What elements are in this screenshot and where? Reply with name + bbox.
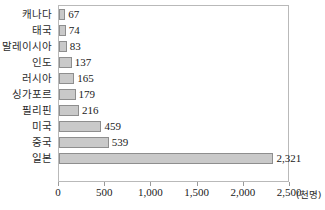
bar-value-label: 179	[76, 87, 96, 103]
category-axis-labels: 캐나다태국말레이시아인도러시아싱가포르필리핀미국중국일본	[0, 6, 55, 182]
bar-value-label: 539	[109, 135, 129, 151]
category-label: 필리핀	[0, 102, 55, 118]
bar	[59, 153, 273, 164]
category-label: 인도	[0, 54, 55, 70]
bar-row: 137	[59, 55, 288, 71]
bar	[59, 105, 79, 116]
category-label: 러시아	[0, 70, 55, 86]
bar-row: 179	[59, 87, 288, 103]
bar-value-label: 83	[67, 39, 81, 55]
bar-value-label: 459	[101, 119, 121, 135]
bar-chart: 캐나다태국말레이시아인도러시아싱가포르필리핀미국중국일본 67748313716…	[0, 0, 325, 210]
x-tick-label: 1,500	[184, 186, 209, 198]
bar	[59, 137, 109, 148]
bar	[59, 57, 72, 68]
x-tick-label: 1,000	[138, 186, 163, 198]
category-label: 일본	[0, 150, 55, 166]
x-tick-label: 0	[55, 186, 61, 198]
x-tick-label: 2,000	[230, 186, 255, 198]
bar-value-label: 137	[72, 55, 92, 71]
category-label: 말레이시아	[0, 38, 55, 54]
x-tick-label: 500	[96, 186, 113, 198]
bar	[59, 121, 101, 132]
bar-row: 459	[59, 119, 288, 135]
bar-row: 2,321	[59, 151, 288, 167]
bar	[59, 25, 66, 36]
bar-row: 83	[59, 39, 288, 55]
category-label: 미국	[0, 118, 55, 134]
x-axis-unit-label: (천명)	[296, 187, 321, 201]
bar-rows: 6774831371651792164595392,321	[59, 7, 288, 183]
bar	[59, 89, 76, 100]
category-label: 캐나다	[0, 6, 55, 22]
bar-row: 165	[59, 71, 288, 87]
category-label: 중국	[0, 134, 55, 150]
bar-row: 216	[59, 103, 288, 119]
category-label: 싱가포르	[0, 86, 55, 102]
bar-value-label: 2,321	[273, 151, 301, 167]
plot-area: 6774831371651792164595392,321	[58, 5, 289, 182]
category-label: 태국	[0, 22, 55, 38]
bar-value-label: 216	[79, 103, 99, 119]
bar	[59, 41, 67, 52]
bar-value-label: 165	[74, 71, 94, 87]
bar-value-label: 74	[66, 23, 80, 39]
x-axis-tick-labels: 05001,0001,5002,0002,500	[0, 186, 325, 206]
bar-row: 539	[59, 135, 288, 151]
bar	[59, 73, 74, 84]
bar-value-label: 67	[65, 7, 79, 23]
bar-row: 74	[59, 23, 288, 39]
bar-row: 67	[59, 7, 288, 23]
